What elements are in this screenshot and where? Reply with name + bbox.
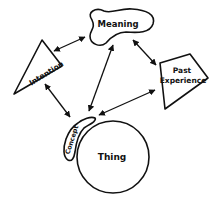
edge-meaning-past-experience [133,40,156,65]
meaning-label: Meaning [97,19,138,29]
thing-label: Thing [98,152,126,162]
past-experience-label-line1: Past [173,66,192,75]
edge-intention-meaning [54,37,85,51]
edge-intention-concept [45,84,70,117]
edge-past-experience-concept [99,90,155,115]
diagram-canvas: Meaning Intention Past Experience Thing … [0,0,218,200]
past-experience-label-line2: Experience [160,76,207,85]
edge-meaning-concept [89,45,113,111]
